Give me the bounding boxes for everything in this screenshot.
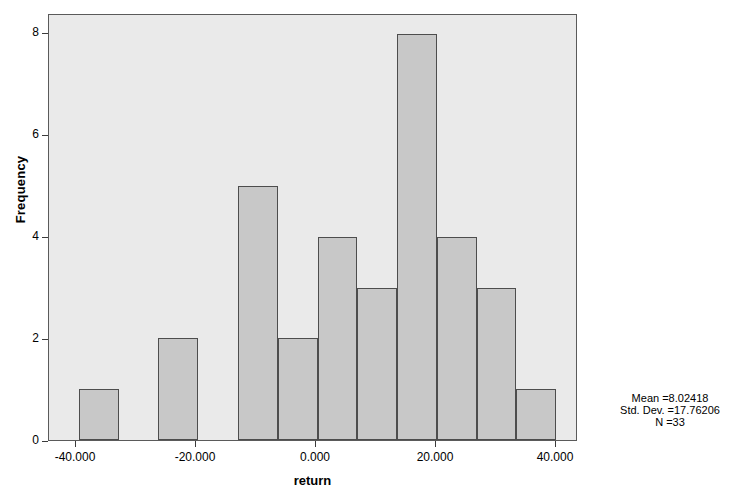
x-axis-tick-label: 0.000 [275,450,355,464]
y-axis-tick-8: 8 [0,33,48,34]
histogram-bar [357,288,397,440]
y-axis-title: Frequency [13,120,28,260]
x-axis-tick-mark [435,441,436,447]
x-axis-tick-label: 40.000 [515,450,595,464]
x-axis-tick-mark [315,441,316,447]
histogram-bar [278,338,318,440]
histogram-bar [477,288,517,440]
y-axis-tick-4: 4 [0,237,48,238]
y-axis-tick-label: 6 [32,127,39,141]
bars-layer [49,15,576,440]
histogram-bar [318,237,358,440]
x-axis-tick-label: 20.000 [395,450,475,464]
y-axis-tick-label: 4 [32,229,39,243]
x-axis-title: return [48,473,577,488]
x-axis-tick-label: -40.000 [35,450,115,464]
histogram-bar [437,237,477,440]
stat-std-dev: Std. Dev. =17.76206 [596,404,744,416]
y-axis-tick-mark [42,441,48,442]
plot-area [48,14,577,441]
histogram-chart: Frequency 0 2 4 6 8 -40.000 -20.000 0.00… [0,0,746,496]
histogram-bar [158,338,198,440]
histogram-bar [516,389,556,440]
y-axis-tick-label: 8 [32,25,39,39]
histogram-bar [238,186,278,440]
histogram-bar [79,389,119,440]
y-axis-tick-2: 2 [0,339,48,340]
stat-n: N =33 [596,416,744,428]
y-axis-tick-0: 0 [0,441,48,442]
stat-mean: Mean =8.02418 [596,392,744,404]
y-axis-tick-label: 2 [32,331,39,345]
y-axis-tick-label: 0 [32,433,39,447]
x-axis-tick-label: -20.000 [155,450,235,464]
statistics-annotation: Mean =8.02418 Std. Dev. =17.76206 N =33 [596,392,744,428]
y-axis-tick-6: 6 [0,135,48,136]
histogram-bar [397,34,437,440]
x-axis-tick-mark [555,441,556,447]
x-axis-tick-mark [75,441,76,447]
x-axis-tick-mark [195,441,196,447]
